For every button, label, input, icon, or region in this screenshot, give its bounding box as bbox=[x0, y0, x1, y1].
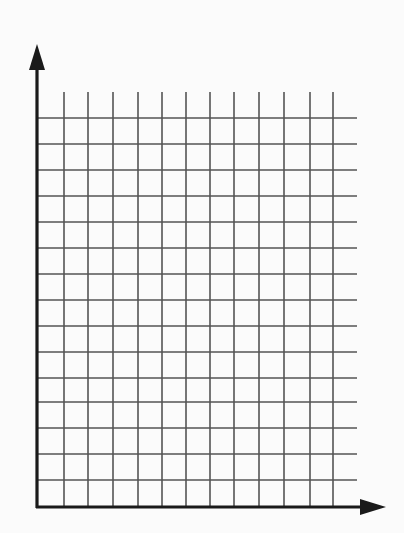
coordinate-grid bbox=[0, 0, 404, 533]
background bbox=[0, 0, 404, 533]
